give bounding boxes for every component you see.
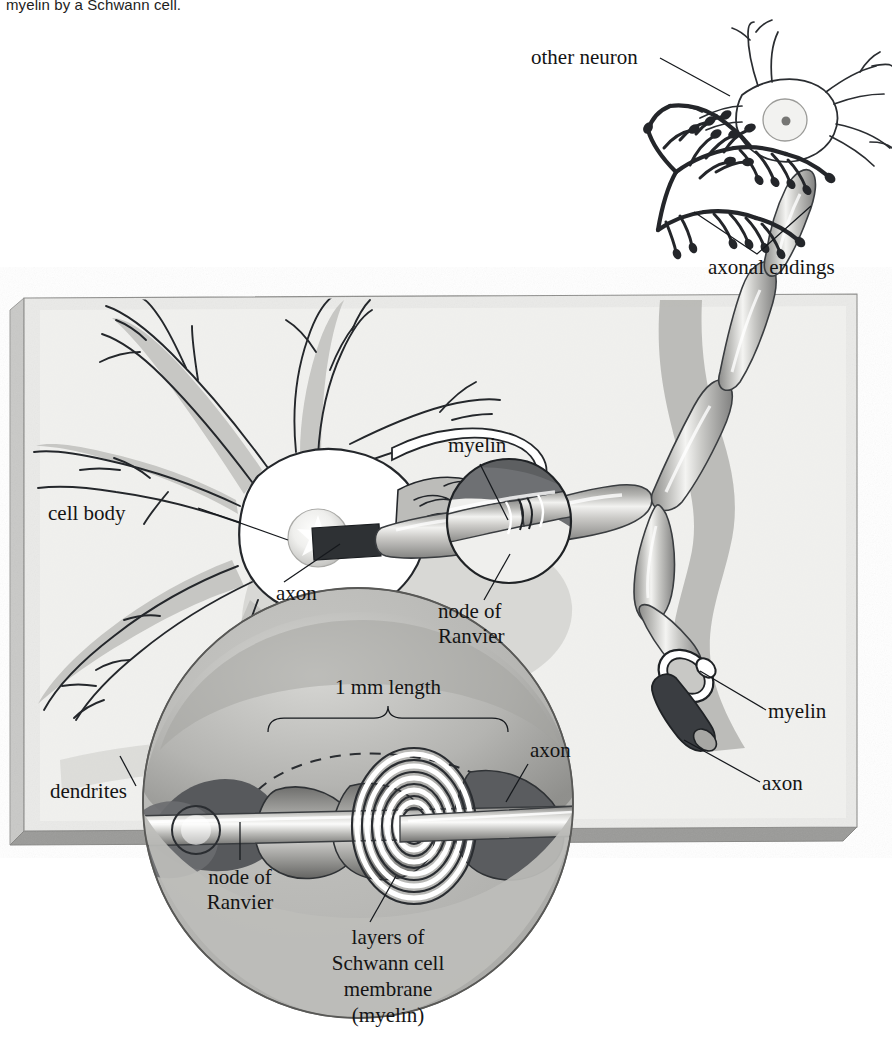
label-dendrites: dendrites <box>50 779 127 803</box>
label-node-ranvier-mid-line2: Ranvier <box>438 624 504 648</box>
panel-left-bevel <box>10 298 24 845</box>
label-membrane-line1: layers of <box>352 925 425 949</box>
axon-dark-band <box>312 524 381 560</box>
figure-page: myelin by a Schwann cell. <box>0 0 892 1049</box>
label-myelin-right: myelin <box>768 699 827 723</box>
neuron-myelin-illustration: other neuron axonal endings cell body de… <box>0 0 892 1049</box>
leader-other-neuron <box>660 58 730 96</box>
label-other-neuron: other neuron <box>531 45 638 69</box>
label-node-ranvier-mid-line1: node of <box>438 599 502 623</box>
label-inset-node-line1: node of <box>208 865 272 889</box>
label-axon-right: axon <box>762 771 803 795</box>
label-cell-body: cell body <box>48 501 126 525</box>
label-axonal-endings: axonal endings <box>708 255 835 279</box>
label-inset-axon: axon <box>530 738 571 762</box>
label-membrane-line3: membrane <box>344 977 433 1001</box>
label-membrane-line4: (myelin) <box>352 1003 424 1027</box>
label-scale-1mm: 1 mm length <box>335 675 442 699</box>
other-neuron <box>641 20 892 261</box>
label-membrane-line2: Schwann cell <box>332 951 445 975</box>
label-inset-node-line2: Ranvier <box>207 890 273 914</box>
label-myelin-mid: myelin <box>448 433 507 457</box>
label-axon-soma: axon <box>276 581 317 605</box>
